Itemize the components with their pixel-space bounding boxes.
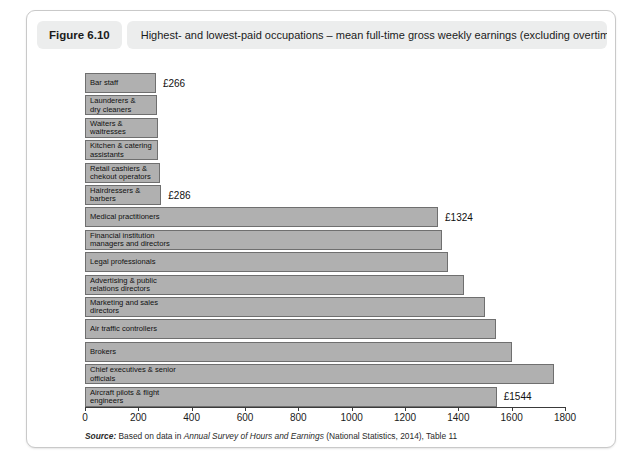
x-axis-tick-label: 600 — [237, 412, 254, 423]
x-axis-tick-label: 1400 — [447, 412, 469, 423]
bar-category-label: Retail cashiers & chekout operators — [90, 164, 151, 181]
bar: Aircraft pilots & flight engineers — [85, 387, 497, 407]
bar-row: Aircraft pilots & flight engineers£1544 — [85, 387, 532, 407]
source-publication: Annual Survey of Hours and Earnings — [184, 431, 324, 441]
bar-row: Bar staff£266 — [85, 73, 185, 93]
bar: Waiters & waitresses — [85, 118, 158, 138]
bar-category-label: Medical practitioners — [90, 213, 160, 221]
x-axis-tick — [85, 407, 86, 411]
bar-row: Legal professionals — [85, 252, 448, 272]
source-suffix: (National Statistics, 2014), Table 11 — [326, 431, 457, 441]
bar-value-label: £1544 — [504, 391, 532, 402]
bar: Financial institution managers and direc… — [85, 230, 442, 250]
x-axis-tick — [298, 407, 299, 411]
bar-category-label: Legal professionals — [90, 258, 155, 266]
x-axis-tick-label: 1200 — [394, 412, 416, 423]
source-note: Source: Based on data in Annual Survey o… — [85, 431, 457, 441]
bar: Medical practitioners — [85, 207, 438, 227]
bar-category-label: Advertising & public relations directors — [90, 276, 157, 293]
bar-category-label: Chief executives & senior officials — [90, 366, 176, 383]
chart-plot-area: Bar staff£266Launderers & dry cleanersWa… — [85, 71, 565, 407]
x-axis-tick-label: 200 — [130, 412, 147, 423]
bar-row: Marketing and sales directors — [85, 297, 485, 317]
bar: Bar staff — [85, 73, 156, 93]
figure-title: Highest- and lowest-paid occupations – m… — [127, 21, 607, 49]
bar-value-label: £1324 — [445, 212, 473, 223]
bar-row: Launderers & dry cleaners — [85, 95, 157, 115]
x-axis-tick-label: 1000 — [341, 412, 363, 423]
bar-category-label: Waiters & waitresses — [90, 119, 126, 136]
x-axis-tick — [138, 407, 139, 411]
bar-category-label: Air traffic controllers — [90, 325, 157, 333]
bar: Air traffic controllers — [85, 319, 496, 339]
bar: Brokers — [85, 342, 512, 362]
bar-row: Financial institution managers and direc… — [85, 230, 442, 250]
x-axis-tick-label: 1600 — [501, 412, 523, 423]
bar-category-label: Hairdressers & barbers — [90, 187, 140, 204]
x-axis-tick — [512, 407, 513, 411]
bar-category-label: Kitchen & catering assistants — [90, 142, 152, 159]
bar: Advertising & public relations directors — [85, 275, 464, 295]
bar: Kitchen & catering assistants — [85, 140, 158, 160]
bar-category-label: Brokers — [90, 348, 116, 356]
x-axis-tick — [192, 407, 193, 411]
figure-header: Figure 6.10 Highest- and lowest-paid occ… — [37, 21, 607, 49]
x-axis-tick-label: 0 — [82, 412, 88, 423]
bar-category-label: Launderers & dry cleaners — [90, 97, 136, 114]
bar-row: Hairdressers & barbers£286 — [85, 185, 191, 205]
x-axis-tick-label: 1800 — [554, 412, 576, 423]
x-axis-tick — [565, 407, 566, 411]
bar-category-label: Aircraft pilots & flight engineers — [90, 388, 159, 405]
x-axis-tick — [352, 407, 353, 411]
x-axis-tick-label: 800 — [290, 412, 307, 423]
figure-panel: Figure 6.10 Highest- and lowest-paid occ… — [26, 10, 616, 448]
bar-row: Kitchen & catering assistants — [85, 140, 158, 160]
source-lead: Based on data in — [119, 431, 182, 441]
bar-row: Waiters & waitresses — [85, 118, 158, 138]
x-axis-tick — [245, 407, 246, 411]
x-axis-tick — [405, 407, 406, 411]
bar-value-label: £266 — [163, 78, 185, 89]
figure-number: Figure 6.10 — [37, 21, 122, 49]
source-prefix: Source: — [85, 431, 116, 441]
bar-row: Retail cashiers & chekout operators — [85, 163, 160, 183]
x-axis-tick — [458, 407, 459, 411]
bar-row: Air traffic controllers — [85, 319, 496, 339]
bar: Marketing and sales directors — [85, 297, 485, 317]
bar-row: Advertising & public relations directors — [85, 275, 464, 295]
bar: Legal professionals — [85, 252, 448, 272]
bar: Hairdressers & barbers — [85, 185, 161, 205]
bar-row: Brokers — [85, 342, 512, 362]
bar-category-label: Financial institution managers and direc… — [90, 231, 170, 248]
bar-category-label: Bar staff — [90, 79, 118, 87]
bar-row: Chief executives & senior officials — [85, 364, 554, 384]
bar-value-label: £286 — [168, 190, 190, 201]
bar: Retail cashiers & chekout operators — [85, 163, 160, 183]
x-axis-line — [85, 407, 566, 408]
bar-category-label: Marketing and sales directors — [90, 299, 158, 316]
x-axis-tick-label: 400 — [183, 412, 200, 423]
bar: Chief executives & senior officials — [85, 364, 554, 384]
bar: Launderers & dry cleaners — [85, 95, 157, 115]
bar-row: Medical practitioners£1324 — [85, 207, 473, 227]
